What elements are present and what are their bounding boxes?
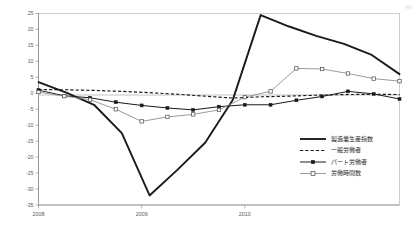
series-marker xyxy=(398,98,401,101)
y-tick-label: -20 xyxy=(26,154,34,160)
x-tick-label: 2009 xyxy=(136,211,148,217)
legend-label: 製造業生産指数 xyxy=(331,135,373,143)
series-marker xyxy=(295,67,298,70)
series-marker xyxy=(372,92,375,95)
legend-item-3: パート労働者 xyxy=(300,158,367,166)
y-tick-label: 10 xyxy=(28,58,34,64)
series-marker xyxy=(114,101,117,104)
x-tick-label: 2008 xyxy=(33,211,45,217)
line-chart: (%) 2520151050-5-10-15-20-25-30-35 20082… xyxy=(0,0,416,227)
legend-item-1: 製造業生産指数 xyxy=(300,135,373,143)
series-marker xyxy=(114,108,117,111)
legend-item-4: 労働時間数 xyxy=(300,169,361,177)
series-marker xyxy=(346,90,349,93)
y-tick-label: -15 xyxy=(26,138,34,144)
series-marker xyxy=(269,90,272,93)
y-tick-label: 25 xyxy=(28,10,34,16)
y-tick-label: -30 xyxy=(26,186,34,192)
y-tick-label: 20 xyxy=(28,26,34,32)
legend-marker xyxy=(311,160,314,163)
series-marker xyxy=(398,79,401,82)
series-marker xyxy=(295,99,298,102)
series-marker xyxy=(269,103,272,106)
legend-label: パート労働者 xyxy=(331,158,367,166)
series-marker xyxy=(192,108,195,111)
y-axis: 2520151050-5-10-15-20-25-30-35 xyxy=(26,10,39,208)
chart-legend: 製造業生産指数一般労働者パート労働者労働時間数 xyxy=(300,135,373,178)
legend-label: 労働時間数 xyxy=(331,169,361,177)
unit-note: (%) xyxy=(405,5,413,10)
y-tick-label: -10 xyxy=(26,122,34,128)
series-marker xyxy=(140,120,143,123)
series-marker xyxy=(217,108,220,111)
y-tick-label: -25 xyxy=(26,170,34,176)
legend-label: 一般労働者 xyxy=(331,146,361,154)
series-marker xyxy=(140,104,143,107)
y-tick-label: 0 xyxy=(31,90,34,96)
series-marker xyxy=(166,115,169,118)
legend-marker xyxy=(311,172,315,176)
series-marker xyxy=(243,103,246,106)
series-line xyxy=(39,89,400,98)
x-tick-label: 2010 xyxy=(239,211,251,217)
y-tick-label: -5 xyxy=(29,106,34,112)
series-marker xyxy=(372,77,375,80)
series-2 xyxy=(39,89,400,98)
x-axis: 200820092010 xyxy=(33,205,400,217)
series-marker xyxy=(166,106,169,109)
y-tick-label: -35 xyxy=(26,202,34,208)
legend-item-2: 一般労働者 xyxy=(300,146,361,154)
y-tick-label: 5 xyxy=(31,74,34,80)
series-marker xyxy=(321,95,324,98)
series-marker xyxy=(320,67,323,70)
series-marker xyxy=(218,105,221,108)
series-marker xyxy=(63,94,66,97)
y-tick-label: 15 xyxy=(28,42,34,48)
series-marker xyxy=(37,90,40,93)
series-marker xyxy=(192,113,195,116)
series-marker xyxy=(88,98,91,101)
chart-svg: (%) 2520151050-5-10-15-20-25-30-35 20082… xyxy=(0,0,416,227)
series-marker xyxy=(243,95,246,98)
series-marker xyxy=(346,72,349,75)
